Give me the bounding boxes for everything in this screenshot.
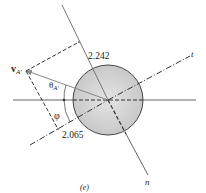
figure-caption: (e) — [80, 183, 89, 192]
t-projection-point — [57, 128, 59, 130]
theta-arc — [64, 85, 66, 100]
t-axis-label: t — [191, 49, 194, 59]
n-axis-label: n — [145, 177, 150, 187]
n-axis-lower — [126, 134, 148, 175]
t-component-value: 2.065 — [62, 130, 84, 140]
collision-diagram: vA′ θA′ φ 2.242 2.065 t n (e) — [0, 0, 206, 193]
phi-label: φ — [54, 110, 60, 121]
angle-vertex-marker — [63, 99, 66, 102]
velocity-label: vA′ — [11, 63, 22, 76]
n-component-projection — [26, 42, 79, 71]
phi-arc — [64, 100, 70, 122]
n-projection-point — [78, 41, 80, 43]
n-component-value: 2.242 — [88, 51, 110, 61]
